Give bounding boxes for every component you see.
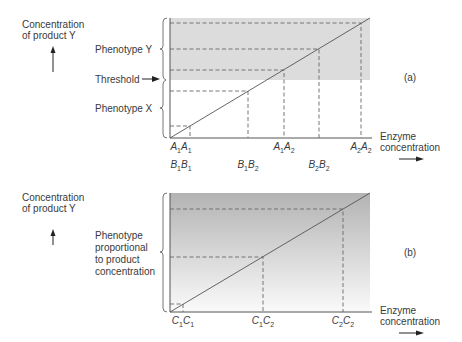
brace-phenotype-x [160, 80, 167, 138]
tick-b1b1: B1B1 [170, 159, 191, 172]
tick-a2a2: A2A2 [349, 141, 371, 154]
arrow-up-icon [51, 46, 56, 72]
phenotype-y-label: Phenotype Y [95, 44, 152, 55]
arrow-right-icon [142, 76, 160, 82]
arrow-right-icon [399, 331, 424, 336]
y-axis-label-b: Concentration of product Y [22, 192, 87, 214]
arrow-up-icon [51, 229, 56, 245]
x-axis-label-a: Enzyme concentration [380, 131, 440, 153]
phenotype-x-label: Phenotype X [95, 103, 153, 114]
tick-c1c2: C1C2 [252, 315, 274, 328]
genetics-figure: Concentration of product Y Phenotype Y T… [0, 0, 462, 342]
tick-a1a2: A1A2 [272, 141, 294, 154]
tick-b2b2: B2B2 [308, 159, 329, 172]
y-axis-label-a: Concentration of product Y [22, 19, 87, 41]
tick-labels-a: A1A1 A1A2 A2A2 [169, 141, 371, 154]
tick-a1a1: A1A1 [169, 141, 191, 154]
phenotype-proportional-label: Phenotype proportional to product concen… [95, 230, 155, 277]
tick-b1b2: B1B2 [237, 159, 258, 172]
tick-c2c2: C2C2 [332, 315, 354, 328]
x-axis-label-b: Enzyme concentration [380, 305, 440, 327]
panel-a: Concentration of product Y Phenotype Y T… [22, 18, 440, 172]
tick-c1c1: C1C1 [172, 315, 194, 328]
threshold-label: Threshold [95, 74, 139, 85]
tick-labels-c: C1C1 C1C2 C2C2 [172, 315, 354, 328]
tick-labels-b: B1B1 B1B2 B2B2 [170, 159, 329, 172]
brace-phenotype-y [160, 18, 167, 80]
panel-b: Concentration of product Y Phenotype pro… [22, 192, 440, 336]
panel-label-a: (a) [404, 72, 416, 83]
panel-label-b: (b) [404, 247, 416, 258]
arrow-right-icon [399, 157, 424, 162]
brace-phenotype-proportional [160, 193, 167, 312]
